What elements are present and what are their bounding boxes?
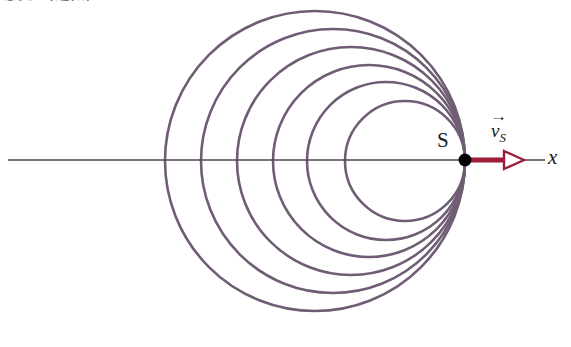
doppler-wavefront-figure: ساختار موج S → vS x [0,0,571,347]
x-axis-label: x [548,147,557,168]
wavefront-circle [237,47,465,275]
velocity-arrow-head-icon [504,151,524,169]
wavefront-circle [345,101,465,221]
wavefront-circle [273,65,465,257]
vector-arrow-icon: → [490,112,506,121]
velocity-symbol-wrap: vS [491,121,506,144]
wavefront-circle [201,29,465,293]
wavefront-diagram-canvas [0,0,571,347]
wavefront-circle-group [165,11,465,311]
wavefront-circle [165,11,465,311]
velocity-vector-label: → vS [491,112,506,144]
source-point-dot [459,154,472,167]
velocity-subscript: S [499,130,506,145]
wavefront-circle [307,82,465,240]
source-point-label: S [437,130,449,151]
